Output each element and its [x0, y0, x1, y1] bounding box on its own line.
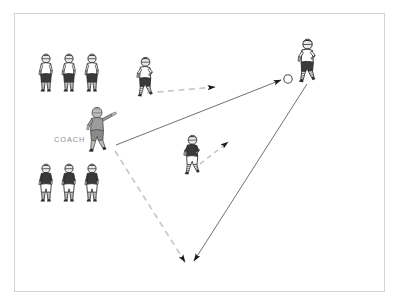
movement-run-middle-up-right [200, 142, 228, 164]
diagram-stage: COACH [0, 0, 400, 306]
soccer-ball [284, 75, 292, 83]
players-layer [39, 39, 316, 201]
player-queue-bl-1 [39, 164, 52, 202]
coach-label: COACH [54, 136, 85, 143]
player-queue-bl-3 [85, 164, 98, 202]
diagram-canvas [0, 0, 400, 306]
player-queue-tl-1 [39, 54, 52, 92]
player-server-right [298, 39, 315, 82]
movement-run-coach-to-bottom [115, 151, 185, 262]
player-runner-top [137, 57, 153, 96]
player-queue-bl-2 [62, 164, 75, 202]
player-queue-tl-2 [62, 54, 75, 92]
movement-pass-server-to-bottom [194, 84, 307, 261]
player-runner-middle [184, 135, 200, 174]
movement-lines [115, 80, 307, 262]
player-coach [87, 107, 117, 151]
player-queue-tl-3 [85, 54, 98, 92]
movement-run-top-to-ball [147, 87, 215, 93]
